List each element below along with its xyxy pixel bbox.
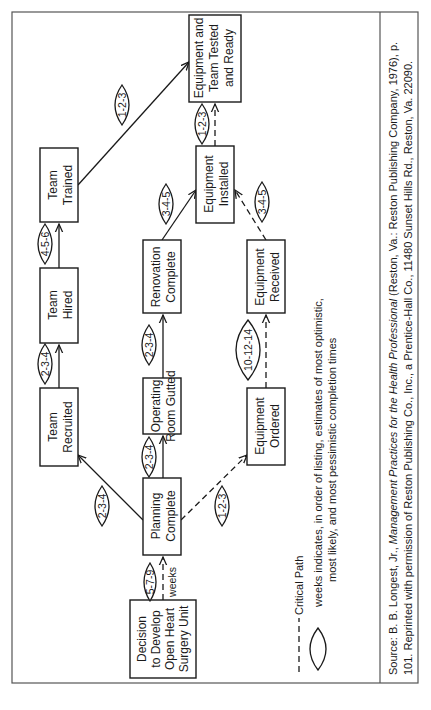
- node-equip-installed: Equipment Installed: [196, 146, 234, 223]
- svg-text:Hired: Hired: [61, 291, 75, 320]
- svg-text:2-3-4: 2-3-4: [143, 445, 155, 470]
- estimate-renovation-installed: 3-4-5: [159, 184, 173, 224]
- svg-text:Recruited: Recruited: [61, 401, 75, 452]
- svg-text:Planning: Planning: [149, 493, 163, 540]
- estimate-planning-ordered: 1-2-3: [215, 486, 229, 526]
- svg-text:1-2-3: 1-2-3: [196, 112, 208, 137]
- svg-text:Open Heart: Open Heart: [163, 607, 177, 670]
- edge-trained-ready: [78, 62, 189, 185]
- estimate-decision-planning: 5-7-9: [144, 563, 156, 601]
- weeks-label: weeks: [166, 567, 178, 598]
- svg-text:5-7-9: 5-7-9: [144, 570, 156, 595]
- svg-text:Source: B. B. Longest, Jr., Ma: Source: B. B. Longest, Jr., Management P…: [387, 42, 399, 675]
- estimate-installed-ready: 1-2-3: [195, 104, 209, 144]
- estimate-ordered-received: 10-12-14: [236, 320, 260, 380]
- edge-planning-ordered: [181, 455, 247, 520]
- svg-text:Equipment and: Equipment and: [192, 18, 206, 99]
- svg-text:Team: Team: [46, 412, 60, 441]
- svg-text:Equipment: Equipment: [253, 248, 267, 306]
- svg-text:to Develop: to Develop: [149, 610, 163, 668]
- svg-text:Installed: Installed: [217, 162, 231, 207]
- svg-text:Team: Team: [46, 170, 60, 199]
- svg-text:10-12-14: 10-12-14: [242, 329, 254, 371]
- legend: Critical Path weeks indicates, in order …: [293, 298, 338, 672]
- svg-text:Equipment: Equipment: [253, 397, 267, 455]
- node-team-hired: Team Hired: [40, 268, 78, 343]
- svg-text:Team Tested: Team Tested: [207, 24, 221, 92]
- node-team-recruited: Team Recruited: [40, 388, 78, 466]
- svg-text:Decision: Decision: [135, 616, 149, 662]
- svg-text:3-4-5: 3-4-5: [160, 192, 172, 217]
- estimate-recruited-hired: 2-3-4: [38, 344, 52, 384]
- legend-critical-path-label: Critical Path: [293, 556, 305, 615]
- svg-text:Complete: Complete: [164, 251, 178, 303]
- svg-text:Complete: Complete: [164, 490, 178, 542]
- estimate-planning-gutted: 2-3-4: [142, 437, 156, 477]
- svg-text:Surgery Unit: Surgery Unit: [177, 605, 191, 672]
- node-decision: Decision to Develop Open Heart Surgery U…: [130, 600, 196, 678]
- estimate-hired-trained: 4-5-6: [38, 224, 52, 264]
- svg-text:Ordered: Ordered: [268, 404, 282, 448]
- estimate-planning-recruited: 2-3-4: [95, 486, 109, 526]
- node-team-trained: Team Trained: [40, 148, 78, 222]
- svg-text:Renovation: Renovation: [149, 247, 163, 308]
- svg-text:1-2-3: 1-2-3: [116, 93, 128, 118]
- estimate-gutted-renovation: 2-3-4: [142, 325, 156, 365]
- source-citation: Source: B. B. Longest, Jr., Management P…: [387, 42, 414, 675]
- svg-text:and Ready: and Ready: [222, 29, 236, 87]
- legend-lens-icon: [310, 628, 326, 670]
- svg-text:Operating: Operating: [149, 380, 163, 433]
- node-equip-received: Equipment Received: [247, 240, 285, 313]
- node-ready: Equipment and Team Tested and Ready: [189, 15, 241, 102]
- legend-lens-text-2: most likely, and most pessimistic comple…: [326, 337, 338, 582]
- svg-text:101. Reprinted with permission: 101. Reprinted with permission of Reston…: [402, 61, 414, 675]
- node-or-gutted: Operating Room Gutted: [143, 370, 181, 441]
- pert-diagram-page: Equipment and Team Tested and Ready Team…: [0, 0, 431, 710]
- svg-text:2-3-4: 2-3-4: [96, 494, 108, 519]
- edge-planning-recruited: [78, 455, 143, 520]
- svg-text:Equipment: Equipment: [202, 155, 216, 213]
- svg-text:Room Gutted: Room Gutted: [164, 370, 178, 441]
- svg-text:1-2-3: 1-2-3: [216, 494, 228, 519]
- svg-text:2-3-4: 2-3-4: [143, 333, 155, 358]
- svg-text:3-4-5: 3-4-5: [256, 190, 268, 215]
- node-renovation-complete: Renovation Complete: [143, 240, 181, 313]
- svg-text:Received: Received: [268, 252, 282, 302]
- estimate-received-installed: 3-4-5: [255, 182, 269, 222]
- svg-text:Trained: Trained: [61, 165, 75, 205]
- svg-text:4-5-6: 4-5-6: [39, 232, 51, 257]
- node-planning-complete: Planning Complete: [143, 478, 181, 555]
- svg-text:Team: Team: [46, 290, 60, 319]
- node-equip-ordered: Equipment Ordered: [247, 388, 285, 465]
- legend-lens-text-1: weeks indicates, in order of listing, es…: [312, 298, 324, 608]
- estimate-trained-ready: 1-2-3: [115, 85, 129, 125]
- svg-text:2-3-4: 2-3-4: [39, 352, 51, 377]
